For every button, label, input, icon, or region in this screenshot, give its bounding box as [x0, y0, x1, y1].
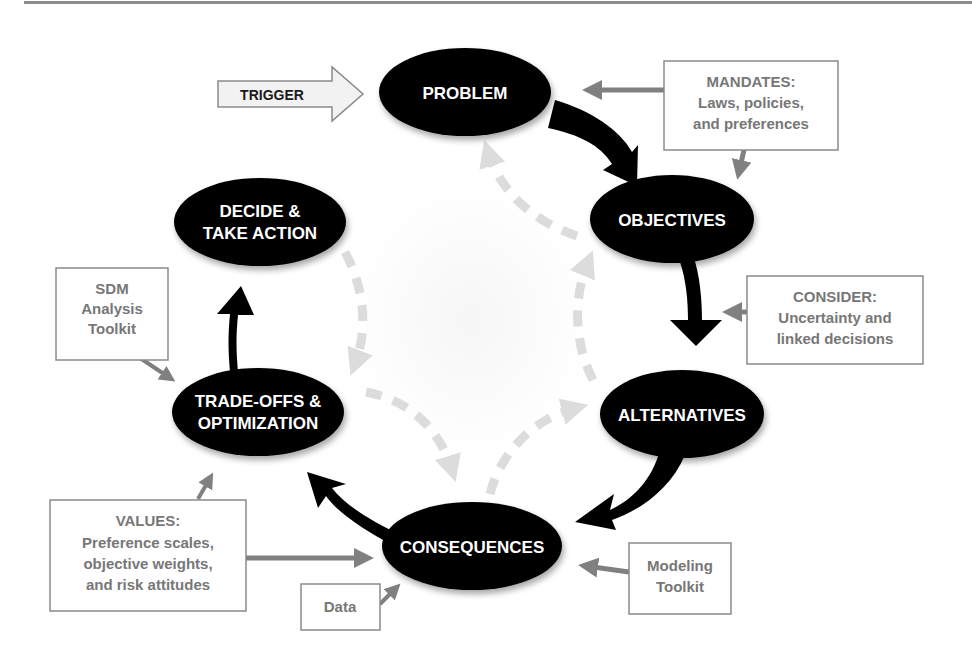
node-decide-line2: TAKE ACTION	[203, 224, 317, 243]
box-values-line4: and risk attitudes	[86, 576, 210, 593]
box-sdm-line1: SDM	[95, 280, 128, 297]
center-glow	[350, 180, 590, 460]
arrow-sdm-tradeoffs	[140, 358, 170, 378]
arrow-problem-objectives	[548, 100, 638, 186]
node-problem-label: PROBLEM	[423, 84, 508, 103]
top-rule	[24, 1, 972, 4]
box-mandates-line2: Laws, policies,	[698, 94, 804, 111]
box-consider-line1: CONSIDER:	[793, 288, 877, 305]
box-values-line3: objective weights,	[83, 555, 212, 572]
node-tradeoffs-line1: TRADE-OFFS &	[195, 392, 322, 411]
node-objectives-label: OBJECTIVES	[618, 211, 726, 230]
box-values-line2: Preference scales,	[82, 534, 214, 551]
arrow-data-consequences	[380, 588, 396, 604]
node-consequences-label: CONSEQUENCES	[400, 538, 545, 557]
trigger-label: TRIGGER	[240, 87, 304, 103]
sdm-cycle-diagram: TRIGGER PROBLEM OBJECTIVES ALTERNATIVES …	[0, 0, 972, 649]
node-tradeoffs	[172, 368, 344, 456]
arrow-modeling-consequences	[586, 566, 629, 572]
box-modeling-line1: Modeling	[647, 557, 713, 574]
arrow-objectives-alternatives	[670, 255, 722, 346]
node-tradeoffs-line2: OPTIMIZATION	[198, 414, 319, 433]
box-mandates-line1: MANDATES:	[707, 73, 796, 90]
arrow-alternatives-consequences	[575, 450, 685, 530]
node-decide-line1: DECIDE &	[219, 202, 300, 221]
box-mandates: MANDATES: Laws, policies, and preference…	[664, 61, 838, 150]
trigger-arrow: TRIGGER	[218, 67, 363, 121]
box-modeling-line2: Toolkit	[656, 578, 704, 595]
box-sdm-line2: Analysis	[81, 300, 143, 317]
node-decide	[174, 178, 346, 266]
box-data: Data	[301, 584, 380, 630]
node-alternatives-label: ALTERNATIVES	[618, 406, 746, 425]
box-consider: CONSIDER: Uncertainty and linked decisio…	[747, 276, 923, 364]
box-sdm-toolkit: SDM Analysis Toolkit	[56, 268, 168, 360]
box-values-line1: VALUES:	[116, 512, 181, 529]
box-consider-line3: linked decisions	[777, 330, 894, 347]
box-mandates-line3: and preferences	[693, 115, 809, 132]
box-data-line1: Data	[324, 598, 357, 615]
arrow-tradeoffs-decide	[217, 286, 254, 372]
box-modeling-toolkit: Modeling Toolkit	[629, 543, 731, 614]
arrow-mandates-objectives	[739, 150, 744, 172]
arrow-values-tradeoffs	[198, 478, 210, 499]
box-consider-line2: Uncertainty and	[778, 309, 891, 326]
box-sdm-line3: Toolkit	[88, 320, 136, 337]
box-values: VALUES: Preference scales, objective wei…	[50, 500, 246, 611]
